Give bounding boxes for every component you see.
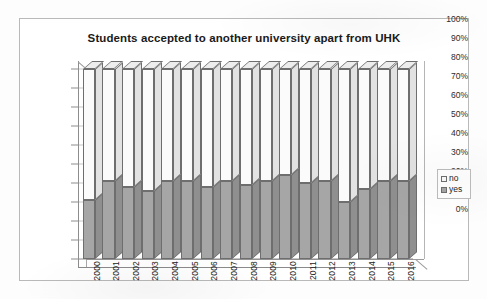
y-axis-tick-label: 40% (451, 128, 468, 138)
bar-group[interactable] (201, 69, 213, 259)
bar-side-face-no (409, 62, 417, 181)
y-axis-tick-label: 60% (451, 90, 468, 100)
x-axis-tick-label: 2000 (92, 261, 102, 281)
bar-segment-no[interactable] (260, 69, 272, 181)
x-axis-tick-label: 2005 (190, 261, 200, 281)
bar-column (260, 69, 272, 259)
bar-segment-yes[interactable] (220, 181, 232, 259)
bar-group[interactable] (397, 69, 409, 259)
bar-segment-yes[interactable] (377, 181, 389, 259)
bar-segment-yes[interactable] (358, 189, 370, 259)
bar-segment-yes[interactable] (318, 181, 330, 259)
y-axis-tick (71, 107, 78, 108)
bar-segment-yes[interactable] (240, 185, 252, 259)
bar-column (102, 69, 114, 259)
x-axis-tick-label: 2003 (150, 261, 160, 281)
bar-group[interactable] (299, 69, 311, 259)
bar-group[interactable] (161, 69, 173, 259)
bar-column (142, 69, 154, 259)
bar-side-face-yes (409, 174, 417, 259)
bar-segment-no[interactable] (142, 69, 154, 191)
bar-segment-yes[interactable] (102, 181, 114, 259)
bar-segment-yes[interactable] (260, 181, 272, 259)
bar-group[interactable] (279, 69, 291, 259)
x-axis-tick-label: 2009 (268, 261, 278, 281)
x-axis-tick-label: 2001 (111, 261, 121, 281)
bar-group[interactable] (377, 69, 389, 259)
bar-column (338, 69, 350, 259)
legend-item[interactable]: no (441, 173, 467, 184)
bar-segment-no[interactable] (279, 69, 291, 175)
bar-column (279, 69, 291, 259)
legend-item[interactable]: yes (441, 184, 467, 195)
bar-group[interactable] (83, 69, 95, 259)
bar-segment-yes[interactable] (279, 175, 291, 259)
bar-segment-no[interactable] (122, 69, 134, 187)
bar-column (377, 69, 389, 259)
bar-segment-no[interactable] (338, 69, 350, 202)
bar-segment-no[interactable] (102, 69, 114, 181)
bar-segment-yes[interactable] (122, 187, 134, 259)
bar-group[interactable] (102, 69, 114, 259)
x-axis-tick-label: 2006 (209, 261, 219, 281)
bar-segment-no[interactable] (358, 69, 370, 189)
bar-segment-no[interactable] (83, 69, 95, 200)
x-axis-tick-label: 2008 (249, 261, 259, 281)
bar-segment-yes[interactable] (299, 183, 311, 259)
y-axis-tick (71, 88, 78, 89)
x-axis-tick-label: 2002 (131, 261, 141, 281)
x-axis-tick-label: 2007 (229, 261, 239, 281)
bar-segment-yes[interactable] (397, 181, 409, 259)
bar-group[interactable] (122, 69, 134, 259)
bar-segment-no[interactable] (201, 69, 213, 187)
x-axis-tick-label: 2014 (367, 261, 377, 281)
y-axis-tick-label: 90% (451, 33, 468, 43)
bar-group[interactable] (260, 69, 272, 259)
bar-segment-no[interactable] (397, 69, 409, 181)
bar-group[interactable] (220, 69, 232, 259)
legend-label: no (449, 174, 458, 183)
y-axis-tick (71, 240, 78, 241)
y-axis-tick (71, 126, 78, 127)
bar-group[interactable] (240, 69, 252, 259)
y-axis-tick-label: 80% (451, 52, 468, 62)
bar-segment-no[interactable] (299, 69, 311, 183)
chart-legend[interactable]: noyes (437, 169, 471, 199)
legend-label: yes (449, 185, 462, 194)
bar-group[interactable] (318, 69, 330, 259)
bar-column (83, 69, 95, 259)
bar-group[interactable] (142, 69, 154, 259)
bar-group[interactable] (338, 69, 350, 259)
chart-title: Students accepted to another university … (20, 32, 468, 44)
x-axis-tick-label: 2011 (308, 261, 318, 280)
x-axis-labels: 2000200120022003200420052006200720082009… (79, 251, 425, 291)
bar-segment-no[interactable] (220, 69, 232, 181)
bar-series-container (79, 69, 413, 259)
bar-column (181, 69, 193, 259)
bar-segment-yes[interactable] (142, 191, 154, 259)
bar-segment-no[interactable] (377, 69, 389, 181)
y-axis-tick-label: 0% (456, 204, 468, 214)
bar-column (122, 69, 134, 259)
y-axis-tick-label: 50% (451, 109, 468, 119)
x-axis-tick-label: 2016 (406, 261, 416, 281)
bar-segment-no[interactable] (181, 69, 193, 181)
bar-segment-yes[interactable] (181, 181, 193, 259)
bar-group[interactable] (181, 69, 193, 259)
y-axis-tick (71, 202, 78, 203)
y-axis-tick (71, 164, 78, 165)
bar-segment-yes[interactable] (161, 181, 173, 259)
chart-frame: Students accepted to another university … (19, 18, 469, 281)
y-axis-tick (71, 259, 78, 260)
x-axis-tick-label: 2013 (347, 261, 357, 281)
bar-column (299, 69, 311, 259)
bar-segment-no[interactable] (161, 69, 173, 181)
bar-column (397, 69, 409, 259)
bar-column (201, 69, 213, 259)
bar-segment-yes[interactable] (201, 187, 213, 259)
bar-group[interactable] (358, 69, 370, 259)
x-axis-tick-label: 2012 (327, 261, 337, 281)
y-axis-tick-label: 30% (451, 147, 468, 157)
bar-segment-no[interactable] (240, 69, 252, 185)
bar-segment-no[interactable] (318, 69, 330, 181)
